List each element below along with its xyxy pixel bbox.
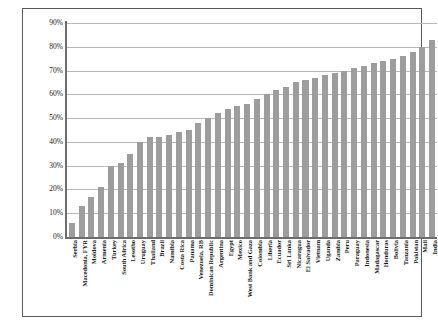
chart-frame: 90%80%70%60%50%40%30%20%10%0% SerbiaMace… <box>22 8 422 317</box>
x-label-slot: Honduras <box>379 239 389 315</box>
bar-slot <box>116 23 126 237</box>
x-label-slot: Tanzania <box>398 239 408 315</box>
x-label-slot: West Bank and Gaza <box>242 239 252 315</box>
bar <box>302 80 308 237</box>
bar <box>264 94 270 237</box>
y-tick-label: 90% <box>49 19 63 27</box>
x-label-slot: Vietnam <box>310 239 320 315</box>
bar-slot <box>330 23 340 237</box>
y-axis-tick-labels: 90%80%70%60%50%40%30%20%10%0% <box>23 23 63 237</box>
bar <box>273 90 279 237</box>
x-label-slot: Indonesia <box>359 239 369 315</box>
bar-slot <box>223 23 233 237</box>
bar-slot <box>271 23 281 237</box>
bar-slot <box>194 23 204 237</box>
bar <box>322 75 328 237</box>
bar <box>380 61 386 237</box>
x-label-slot: Peru <box>340 239 350 315</box>
bar-slot <box>184 23 194 237</box>
bar <box>234 106 240 237</box>
x-label-slot: Armenia <box>96 239 106 315</box>
x-label-slot: Mali <box>417 239 427 315</box>
x-label-slot: Macedonia, FYR <box>77 239 87 315</box>
bar <box>88 197 94 237</box>
y-tick-label: 60% <box>49 91 63 99</box>
bar-slot <box>301 23 311 237</box>
x-label-slot: Madagascar <box>369 239 379 315</box>
bar <box>176 132 182 237</box>
x-label-slot: Moldova <box>86 239 96 315</box>
bar <box>283 87 289 237</box>
bar-slot <box>320 23 330 237</box>
x-label-slot: Serbia <box>67 239 77 315</box>
x-label-slot: Nicaragua <box>291 239 301 315</box>
bar <box>312 78 318 237</box>
x-label-slot: Uganda <box>320 239 330 315</box>
y-tick-label: 80% <box>49 43 63 51</box>
bar-slot <box>398 23 408 237</box>
bar-slot <box>155 23 165 237</box>
x-label-slot: Pakistan <box>408 239 418 315</box>
y-tick-label: 0% <box>53 233 63 241</box>
x-tick-label: India <box>432 240 438 255</box>
bar-slot <box>242 23 252 237</box>
bar-slot <box>417 23 427 237</box>
x-label-slot: Panama <box>184 239 194 315</box>
bar-slot <box>340 23 350 237</box>
x-label-slot: Namibia <box>164 239 174 315</box>
bar <box>400 56 406 237</box>
bar <box>79 206 85 237</box>
bar-slot <box>203 23 213 237</box>
bar <box>195 123 201 237</box>
x-label-slot: Thailand <box>145 239 155 315</box>
bar <box>166 135 172 237</box>
bar-slot <box>262 23 272 237</box>
bar <box>98 187 104 237</box>
x-label-slot: South Africa <box>116 239 126 315</box>
bar <box>351 68 357 237</box>
bar <box>215 113 221 237</box>
x-label-slot: Zambia <box>330 239 340 315</box>
x-label-slot: Venezuela, RB <box>194 239 204 315</box>
bar-slot <box>252 23 262 237</box>
bar-slot <box>106 23 116 237</box>
bar <box>293 82 299 237</box>
bar-slot <box>125 23 135 237</box>
y-tick-label: 70% <box>49 67 63 75</box>
bar <box>410 52 416 237</box>
bar <box>225 109 231 237</box>
y-tick-label: 10% <box>49 209 63 217</box>
x-label-slot: Bolivia <box>388 239 398 315</box>
bar <box>332 73 338 237</box>
x-label-slot: India <box>427 239 437 315</box>
bar <box>127 154 133 237</box>
x-label-slot: Paraguay <box>349 239 359 315</box>
x-label-slot: Turkey <box>106 239 116 315</box>
x-label-slot: Sri Lanka <box>281 239 291 315</box>
y-tick-label: 40% <box>49 138 63 146</box>
bar <box>361 66 367 237</box>
x-label-slot: Ecuador <box>271 239 281 315</box>
x-label-slot: Argentina <box>213 239 223 315</box>
bar-slot <box>164 23 174 237</box>
bar <box>205 118 211 237</box>
bar <box>108 166 114 237</box>
plot-area <box>67 23 437 237</box>
bar-series <box>67 23 437 237</box>
bar-slot <box>86 23 96 237</box>
bar <box>147 137 153 237</box>
x-label-slot: Mexico <box>232 239 242 315</box>
bar-slot <box>359 23 369 237</box>
x-label-slot: Dominican Republic <box>203 239 213 315</box>
x-axis-category-labels: SerbiaMacedonia, FYRMoldovaArmeniaTurkey… <box>67 239 437 315</box>
bar <box>371 63 377 237</box>
bar-slot <box>67 23 77 237</box>
bar <box>390 59 396 237</box>
bar-slot <box>213 23 223 237</box>
bar-slot <box>77 23 87 237</box>
bar <box>137 142 143 237</box>
bar <box>429 40 435 237</box>
bar <box>69 223 75 237</box>
bar-slot <box>427 23 437 237</box>
